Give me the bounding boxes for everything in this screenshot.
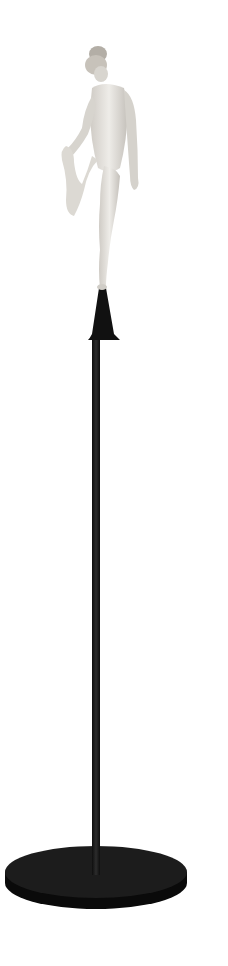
cone-pedestal [88,288,120,340]
sculpture-image [0,0,228,966]
figure [62,46,139,290]
pole [92,335,100,875]
